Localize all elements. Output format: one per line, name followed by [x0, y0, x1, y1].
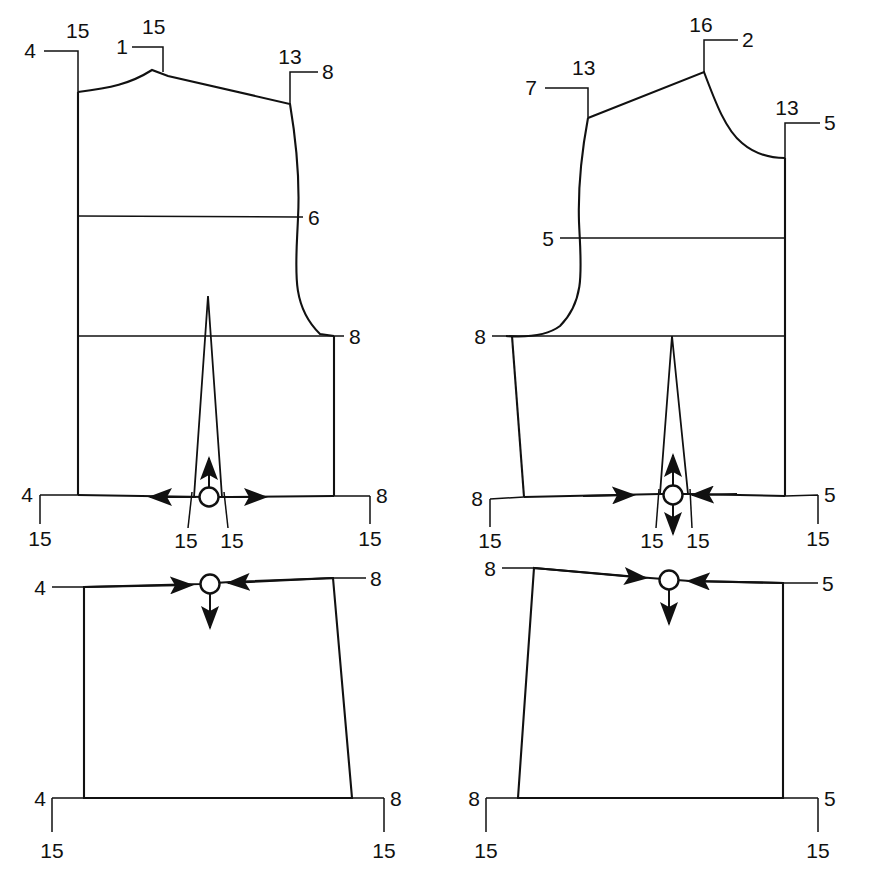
label-bb-bust: 5: [542, 227, 554, 250]
label-fb-center-sub: 15: [142, 15, 165, 38]
callout-leader-bb-waist-right: [785, 495, 818, 524]
back-bodice-side-seam: [512, 336, 524, 497]
back-skirt-grain-circle: [660, 571, 679, 590]
callout-leader-fb-shoulder-right: [290, 72, 318, 104]
label-fs-top-left: 4: [34, 576, 46, 599]
callout-leader-bs-hem-left: [486, 798, 518, 832]
label-bb-neck-right-sub: 5: [824, 111, 836, 134]
front-bodice-grain-marker: [150, 458, 266, 507]
label-bs-hem-right-sub: 15: [806, 839, 829, 862]
label-fs-hem-left-sub: 15: [40, 839, 63, 862]
label-fs-hem-right-num: 8: [390, 787, 402, 810]
callout-leader-fs-hem-right: [352, 798, 384, 832]
front-skirt-grain-marker: [84, 575, 333, 629]
callout-leader-bs-hem-right: [783, 798, 818, 832]
label-fb-shoulder-right-sub: 8: [322, 60, 334, 83]
callout-leader-bb-waist-left: [490, 497, 524, 527]
label-bb-waist-left-sub: 15: [478, 529, 501, 552]
piece-back-bodice: 16 2 7 13 13 5 5 8 8 15 15 15 5 15: [471, 13, 835, 552]
label-bb-shoulder-left-num: 7: [525, 76, 537, 99]
label-fb-waist-left-sub: 15: [28, 527, 51, 550]
callout-leader-bb-shoulder-left: [545, 88, 588, 118]
label-fb-shoulder-right-num: 13: [278, 45, 301, 68]
diagram-canvas: 4 15 1 15 13 8 6 8 4 15 15 15 8 15: [0, 0, 871, 892]
label-bb-waist-left-num: 8: [471, 487, 483, 510]
label-fb-center-num: 1: [116, 35, 128, 58]
label-fb-dart-right-sub: 15: [220, 529, 243, 552]
label-fb-armhole: 8: [349, 325, 361, 348]
front-bodice-outline: [78, 70, 334, 336]
label-fb-shoulder-left-num: 4: [24, 39, 36, 62]
label-bs-hem-left-sub: 15: [474, 839, 497, 862]
label-bs-hem-left-num: 8: [468, 787, 480, 810]
back-skirt-outline: [518, 568, 783, 798]
label-bb-shoulder-left-sub: 13: [572, 56, 595, 79]
front-bodice-grain-circle: [200, 488, 219, 507]
label-bb-dart-right-sub: 15: [686, 529, 709, 552]
front-skirt-grain-circle: [201, 575, 220, 594]
label-bb-neck-sub: 2: [742, 28, 754, 51]
callout-leader-fb-waist-left: [40, 495, 78, 524]
label-bs-top-left: 8: [484, 557, 496, 580]
label-bb-dart-left-sub: 15: [640, 529, 663, 552]
piece-front-bodice: 4 15 1 15 13 8 6 8 4 15 15 15 8 15: [21, 15, 387, 552]
callout-leader-fb-waist-right: [334, 496, 370, 524]
label-bb-waist-right-sub: 15: [806, 527, 829, 550]
label-bs-hem-right-num: 5: [824, 787, 836, 810]
callout-leader-fb-center: [132, 47, 163, 72]
piece-front-skirt: 4 8 4 15 8 15: [34, 567, 401, 862]
back-bodice-outline: [588, 72, 785, 158]
label-fb-shoulder-left-sub: 15: [66, 19, 89, 42]
callout-leader-bb-neck-right: [785, 123, 820, 158]
label-fb-waist-right-num: 8: [376, 484, 388, 507]
label-fb-dart-left-sub: 15: [174, 529, 197, 552]
piece-back-skirt: 8 5 8 15 5 15: [468, 557, 835, 862]
front-bodice-bust-guide: [78, 216, 297, 217]
label-bb-waist-right-num: 5: [824, 483, 836, 506]
callout-leader-fb-shoulder-left: [44, 51, 78, 92]
label-bb-neck-num: 16: [689, 13, 712, 36]
front-skirt-outline: [84, 578, 352, 798]
label-fs-hem-left-num: 4: [34, 787, 46, 810]
back-bodice-waist-line: [524, 494, 785, 497]
back-skirt-grain-marker: [534, 568, 783, 624]
label-bs-top-right: 5: [822, 572, 834, 595]
label-fb-bust: 6: [308, 206, 320, 229]
label-fb-waist-left-num: 4: [21, 483, 33, 506]
label-bb-armhole: 8: [474, 325, 486, 348]
label-fs-hem-right-sub: 15: [372, 839, 395, 862]
label-bb-neck-right-num: 13: [775, 96, 798, 119]
callout-leader-fs-hem-left: [52, 798, 84, 832]
label-fb-waist-right-sub: 15: [358, 527, 381, 550]
callout-leader-bb-neck: [704, 40, 738, 72]
label-fs-top-right: 8: [370, 567, 382, 590]
back-bodice-grain-circle: [664, 486, 683, 505]
pattern-diagram: 4 15 1 15 13 8 6 8 4 15 15 15 8 15: [0, 0, 871, 892]
